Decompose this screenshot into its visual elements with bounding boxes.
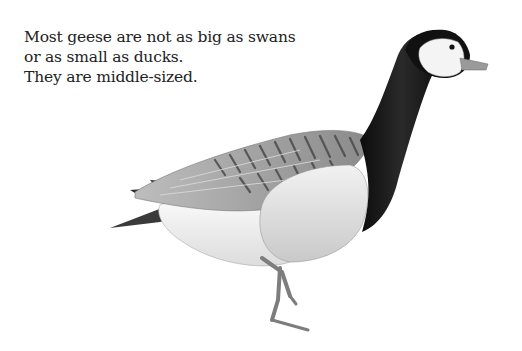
beak bbox=[460, 58, 488, 70]
goose-illustration bbox=[0, 0, 522, 351]
legs bbox=[262, 258, 308, 330]
eye bbox=[449, 44, 454, 49]
book-page: Most geese are not as big as swans or as… bbox=[0, 0, 522, 351]
